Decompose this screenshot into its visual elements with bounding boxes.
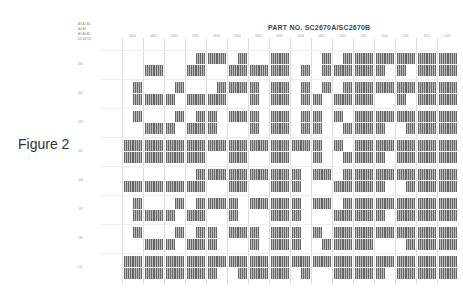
glyph-block (313, 94, 322, 105)
column-divider (269, 38, 270, 284)
glyph-block (238, 268, 247, 279)
glyph-block (280, 239, 289, 250)
glyph-block (397, 227, 406, 238)
glyph-block (427, 140, 436, 151)
glyph-block (196, 152, 205, 163)
glyph-block (133, 152, 142, 163)
glyph-block (166, 256, 175, 267)
glyph-block (322, 65, 331, 76)
glyph-block (280, 53, 289, 64)
glyph-block (133, 198, 142, 209)
glyph-block (133, 181, 142, 192)
glyph-block (250, 268, 259, 279)
glyph-block (427, 123, 436, 134)
row-label: 011 (78, 149, 83, 153)
glyph-block (280, 82, 289, 93)
glyph-block (292, 210, 301, 221)
glyph-block (355, 152, 364, 163)
glyph-block (301, 140, 310, 151)
glyph-block (196, 198, 205, 209)
glyph-block (418, 169, 427, 180)
glyph-block (196, 239, 205, 250)
glyph-block (250, 140, 259, 151)
glyph-block (397, 210, 406, 221)
glyph-block (238, 140, 247, 151)
glyph-block (343, 53, 352, 64)
glyph-block (427, 82, 436, 93)
glyph-block (238, 82, 247, 93)
row-label: 110 (78, 236, 83, 240)
glyph-block (208, 256, 217, 267)
glyph-block (364, 152, 373, 163)
glyph-block (229, 181, 238, 192)
glyph-block (439, 53, 448, 64)
glyph-block (187, 140, 196, 151)
glyph-block (208, 111, 217, 122)
glyph-block (355, 210, 364, 221)
figure-label: Figure 2 (18, 136, 69, 152)
glyph-block (313, 198, 322, 209)
glyph-block (238, 169, 247, 180)
column-divider (416, 38, 417, 284)
glyph-block (355, 94, 364, 105)
glyph-block (271, 140, 280, 151)
glyph-block (280, 152, 289, 163)
glyph-block (175, 256, 184, 267)
row-label: 101 (78, 207, 83, 211)
glyph-block (448, 268, 457, 279)
glyph-block (259, 268, 268, 279)
glyph-block (208, 53, 217, 64)
glyph-block (418, 123, 427, 134)
glyph-block (238, 256, 247, 267)
glyph-block (427, 152, 436, 163)
glyph-block (376, 140, 385, 151)
glyph-block (250, 65, 259, 76)
glyph-block (238, 111, 247, 122)
glyph-block (355, 169, 364, 180)
glyph-block (385, 227, 394, 238)
glyph-block (439, 256, 448, 267)
glyph-block (238, 152, 247, 163)
glyph-block (271, 227, 280, 238)
glyph-block (124, 181, 133, 192)
glyph-block (187, 268, 196, 279)
glyph-block (334, 268, 343, 279)
glyph-block (343, 256, 352, 267)
glyph-block (133, 140, 142, 151)
glyph-block (154, 65, 163, 76)
glyph-block (145, 152, 154, 163)
character-rom-table: 0000000100100011010001010110011110001001… (100, 34, 442, 284)
column-divider (185, 38, 186, 284)
column-divider (395, 38, 396, 284)
glyph-block (448, 152, 457, 163)
glyph-block (175, 181, 184, 192)
glyph-block (196, 140, 205, 151)
glyph-block (448, 181, 457, 192)
glyph-block (175, 152, 184, 163)
row-label: 100 (78, 178, 83, 182)
glyph-block (343, 181, 352, 192)
glyph-block (397, 82, 406, 93)
glyph-block (355, 268, 364, 279)
glyph-block (313, 227, 322, 238)
glyph-block (154, 140, 163, 151)
glyph-block (280, 268, 289, 279)
glyph-block (271, 198, 280, 209)
glyph-block (355, 198, 364, 209)
header-key: A3 A2 A1 A0 A4 A7 A6 A5 D0 D4 D8 (78, 22, 91, 42)
glyph-block (250, 227, 259, 238)
glyph-block (280, 198, 289, 209)
glyph-block (427, 227, 436, 238)
glyph-block (418, 111, 427, 122)
glyph-block (448, 140, 457, 151)
glyph-block (385, 111, 394, 122)
row-divider (100, 224, 442, 225)
glyph-block (217, 198, 226, 209)
column-header: 0011 (185, 34, 206, 38)
glyph-block (406, 256, 415, 267)
glyph-block (418, 181, 427, 192)
row-label: 000 (78, 62, 83, 66)
glyph-block (343, 123, 352, 134)
glyph-block (280, 256, 289, 267)
glyph-block (418, 140, 427, 151)
